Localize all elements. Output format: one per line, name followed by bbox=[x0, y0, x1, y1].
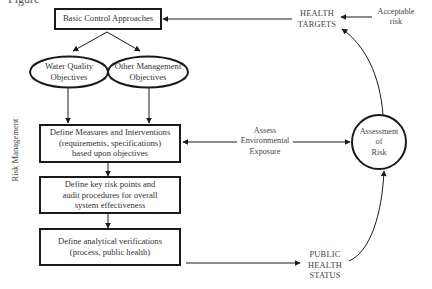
ellipse-down-arrows bbox=[68, 88, 149, 123]
health-targets-line-1: HEALTH bbox=[292, 9, 342, 20]
define-risk-points-line-3: system effectiveness bbox=[40, 200, 180, 211]
assessment-line-3: Risk bbox=[352, 148, 406, 158]
other-management-line-2: Objectives bbox=[108, 72, 188, 83]
branch-arrows bbox=[73, 32, 140, 51]
public-health-status-label: PUBLIC HEALTH STATUS bbox=[302, 250, 348, 282]
risk-management-label: Risk Management bbox=[10, 115, 20, 185]
other-management-line-1: Other Management bbox=[108, 61, 188, 72]
basic-control-label: Basic Control Approaches bbox=[55, 13, 161, 24]
acceptable-risk-line-1: Acceptable bbox=[372, 7, 420, 17]
define-measures-line-3: based upon objectives bbox=[40, 148, 180, 159]
water-quality-line-1: Water Quality bbox=[30, 61, 108, 72]
health-targets-line-2: TARGETS bbox=[292, 20, 342, 31]
public-health-status-line-1: PUBLIC bbox=[302, 250, 348, 261]
define-measures-line-2: (requirements, specifications) bbox=[40, 138, 180, 149]
define-verifications-line-1: Define analytical verifications bbox=[40, 236, 180, 247]
water-quality-line-2: Objectives bbox=[30, 72, 108, 83]
assess-exposure-line-2: Environmental bbox=[235, 136, 295, 146]
define-verifications-label: Define analytical verifications (process… bbox=[40, 236, 180, 257]
health-targets-label: HEALTH TARGETS bbox=[292, 9, 342, 30]
public-health-status-line-2: HEALTH bbox=[302, 261, 348, 272]
acceptable-risk-label: Acceptable risk bbox=[372, 7, 420, 28]
define-measures-line-1: Define Measures and Interventions bbox=[40, 127, 180, 138]
assess-exposure-line-3: Exposure bbox=[235, 147, 295, 157]
assess-exposure-line-1: Assess bbox=[235, 126, 295, 136]
define-verifications-line-2: (process, public health) bbox=[40, 247, 180, 258]
define-risk-points-label: Define key risk points and audit procedu… bbox=[40, 179, 180, 211]
other-management-label: Other Management Objectives bbox=[108, 61, 188, 82]
define-measures-label: Define Measures and Interventions (requi… bbox=[40, 127, 180, 159]
acceptable-risk-line-2: risk bbox=[372, 17, 420, 27]
assess-exposure-label: Assess Environmental Exposure bbox=[235, 126, 295, 157]
define-risk-points-line-2: audit procedures for overall bbox=[40, 190, 180, 201]
status-to-risk-curve bbox=[349, 171, 384, 261]
figure-caption-cropped: Figure bbox=[8, 0, 39, 7]
define-risk-points-line-1: Define key risk points and bbox=[40, 179, 180, 190]
water-quality-label: Water Quality Objectives bbox=[30, 61, 108, 82]
assessment-line-1: Assessment bbox=[352, 127, 406, 137]
risk-to-targets-curve bbox=[342, 29, 383, 115]
assessment-line-2: of bbox=[352, 137, 406, 147]
assessment-of-risk-label: Assessment of Risk bbox=[352, 127, 406, 158]
public-health-status-line-3: STATUS bbox=[302, 271, 348, 282]
